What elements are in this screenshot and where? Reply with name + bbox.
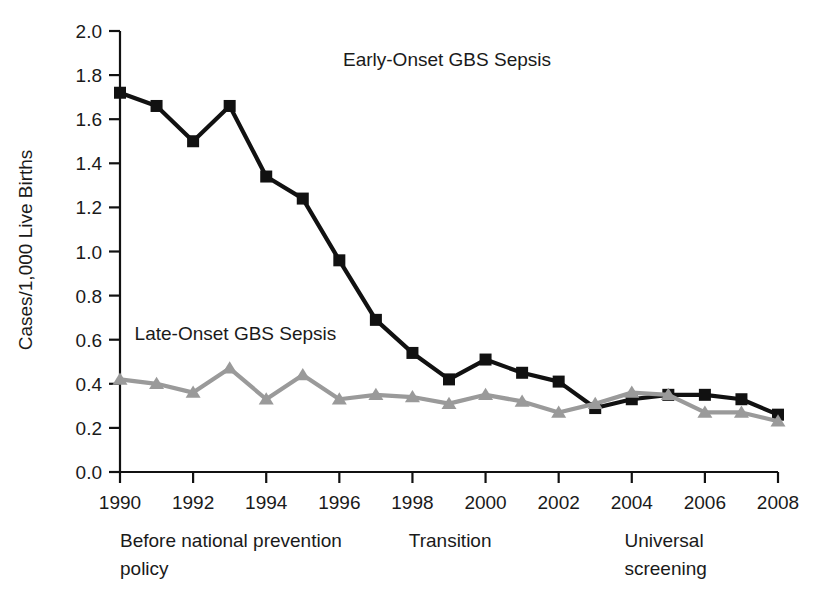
series-line [120,93,778,415]
data-point-marker [222,361,237,373]
period-annotation-before-policy: Before national preventionpolicy [120,530,342,579]
data-point-marker [735,393,747,405]
data-point-marker [187,135,199,147]
data-point-marker [114,87,126,99]
x-axis: 1990199219941996199820002002200420062008 [99,472,799,513]
x-axis-tick-label: 1996 [318,492,360,513]
period-annotation-universal-screening: Universalscreening [624,530,706,579]
series-labels-group: Early-Onset GBS SepsisLate-Onset GBS Sep… [135,49,551,343]
y-axis-title: Cases/1,000 Live Births [15,150,36,351]
period-annotations-group: Before national preventionpolicyTransiti… [120,530,707,579]
x-axis-tick-label: 1992 [172,492,214,513]
period-label-line1: Transition [409,530,492,551]
period-label-line2: policy [120,558,169,579]
data-point-marker [699,389,711,401]
data-point-marker [370,314,382,326]
x-axis-tick-label: 1990 [99,492,141,513]
y-axis: 0.00.20.40.60.81.01.21.41.61.82.0 [76,21,120,483]
y-axis-tick-label: 0.8 [76,286,102,307]
y-axis-tick-label: 1.2 [76,197,102,218]
data-point-marker [295,368,310,380]
period-label-line2: screening [624,558,706,579]
period-annotation-transition: Transition [409,530,492,551]
x-axis-tick-label: 2008 [757,492,799,513]
period-label-line1: Before national prevention [120,530,342,551]
y-axis-tick-label: 1.6 [76,109,102,130]
data-series-group [113,87,786,427]
data-point-marker [297,193,309,205]
x-axis-tick-label: 2002 [538,492,580,513]
x-axis-tick-label: 1998 [391,492,433,513]
x-axis-tick-label: 1994 [245,492,288,513]
data-point-marker [260,171,272,183]
data-point-marker [443,373,455,385]
data-point-marker [516,367,528,379]
series-label-early-onset: Early-Onset GBS Sepsis [343,49,551,70]
data-point-marker [333,254,345,266]
data-point-marker [151,100,163,112]
y-axis-tick-label: 0.4 [76,374,103,395]
y-axis-tick-label: 0.6 [76,330,102,351]
y-axis-tick-label: 0.2 [76,418,102,439]
y-axis-tick-label: 0.0 [76,462,102,483]
x-axis-tick-label: 2004 [611,492,654,513]
series-early-onset [114,87,784,421]
y-axis-tick-label: 2.0 [76,21,102,42]
y-axis-tick-label: 1.8 [76,65,102,86]
x-axis-tick-label: 2000 [464,492,506,513]
x-axis-tick-label: 2006 [684,492,726,513]
y-axis-tick-label: 1.0 [76,242,102,263]
data-point-marker [406,347,418,359]
data-point-marker [224,100,236,112]
chart-container: 0.00.20.40.60.81.01.21.41.61.82.0 199019… [0,0,830,592]
data-point-marker [480,354,492,366]
series-label-late-onset: Late-Onset GBS Sepsis [135,323,337,344]
gbs-sepsis-incidence-line-chart: 0.00.20.40.60.81.01.21.41.61.82.0 199019… [0,0,830,592]
y-axis-tick-label: 1.4 [76,153,103,174]
period-label-line1: Universal [624,530,703,551]
data-point-marker [553,376,565,388]
